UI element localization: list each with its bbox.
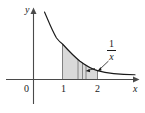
curve-equation-label: 1 x — [107, 39, 116, 62]
x-tick-label-1: 1 — [61, 84, 66, 94]
plot-canvas — [0, 0, 145, 113]
x-axis-label: x — [133, 84, 137, 94]
x-tick-label-2: 2 — [95, 84, 100, 94]
hyperbola-riemann-figure: y x 0 1 2 1 x — [0, 0, 145, 113]
y-axis-label: y — [25, 5, 29, 15]
y-axis-arrowhead — [31, 8, 37, 15]
origin-label: 0 — [24, 84, 29, 94]
x-axis-arrowhead — [133, 77, 140, 83]
fraction-numerator: 1 — [107, 39, 116, 50]
fraction-denominator: x — [107, 52, 116, 63]
hyperbola-curve — [45, 12, 136, 75]
